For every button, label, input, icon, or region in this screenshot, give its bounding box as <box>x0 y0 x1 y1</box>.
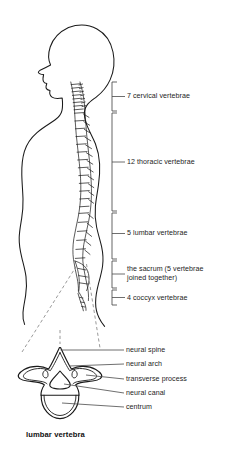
label-neural-canal: neural canal <box>126 389 165 397</box>
dashed-guide-right <box>87 264 101 348</box>
label-lumbar: 5 lumbar vertebrae <box>127 229 187 237</box>
label-transverse-process: transverse process <box>126 375 187 383</box>
bracket-lumbar <box>112 213 117 259</box>
label-centrum: centrum <box>126 403 152 411</box>
label-thoracic: 12 thoracic vertebrae <box>127 158 195 166</box>
body-back-outline <box>69 25 114 326</box>
label-coccyx: 4 coccyx vertebrae <box>127 294 187 302</box>
detail-leader-lines <box>61 350 124 407</box>
label-sacrum: the sacrum (5 vertebrae joined together) <box>127 265 227 282</box>
coccyx-group <box>78 293 86 311</box>
region-brackets <box>112 82 125 305</box>
vertebra-neural-canal <box>50 371 70 389</box>
leader-neural-arch <box>69 364 124 366</box>
anatomy-figure: 7 cervical vertebrae 12 thoracic vertebr… <box>0 0 229 455</box>
bracket-sacrum <box>112 261 117 288</box>
dashed-guide-left <box>22 266 77 352</box>
vertebra-centrum-inner <box>44 395 76 415</box>
thoracic-spinous-processes <box>83 114 94 203</box>
diagram-canvas <box>0 0 229 455</box>
leader-centrum <box>62 403 124 407</box>
leader-transverse-process <box>86 375 124 379</box>
leader-neural-canal <box>64 384 124 393</box>
vertebral-column <box>71 82 94 311</box>
body-front-outline <box>19 28 68 325</box>
lumbar-vertebra-detail <box>18 348 124 419</box>
magnification-guides <box>22 264 100 352</box>
label-neural-arch: neural arch <box>126 360 162 368</box>
thoracic-vertebrae-group <box>74 113 93 207</box>
vertebra-facet-right <box>72 370 77 378</box>
label-neural-spine: neural spine <box>126 346 165 354</box>
vertebra-facet-left <box>43 370 48 378</box>
label-cervical: 7 cervical vertebrae <box>127 92 190 100</box>
detail-caption: lumbar vertebra <box>26 430 85 439</box>
